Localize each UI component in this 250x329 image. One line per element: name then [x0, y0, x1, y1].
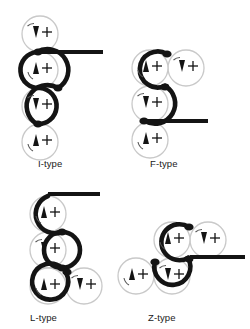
- panel-l-type: [0, 180, 120, 305]
- caption-z-type: Z-type: [148, 312, 176, 323]
- node-circle-ghost: [168, 50, 204, 86]
- caption-l-type: L-type: [30, 312, 57, 323]
- l-type-diagram: [0, 180, 120, 305]
- joint-node: [184, 223, 193, 230]
- panel-i-type: [0, 0, 120, 170]
- joint-node: [54, 85, 63, 92]
- node-circle-ghost: [132, 122, 168, 158]
- panel-f-type: [120, 0, 250, 170]
- joint-node: [161, 84, 170, 91]
- i-type-diagram: [0, 0, 120, 170]
- node-circle-ghost: [190, 222, 226, 258]
- node-circle-active: [132, 86, 168, 122]
- joint-node: [185, 256, 194, 263]
- node-circle-ghost: [66, 268, 102, 304]
- spin-configuration-figure: I-type: [0, 0, 250, 329]
- node-circle-ghost: [22, 124, 58, 160]
- joint-node: [139, 117, 148, 124]
- z-type-diagram: [118, 205, 250, 305]
- joint-node: [162, 50, 171, 57]
- joint-node: [150, 258, 159, 265]
- joint-node: [33, 120, 42, 127]
- f-type-diagram: [120, 0, 250, 170]
- joint-node: [62, 268, 71, 275]
- node-circle-ghost: [118, 258, 154, 294]
- caption-i-type: I-type: [38, 158, 62, 169]
- joint-node: [33, 48, 42, 55]
- caption-f-type: F-type: [150, 158, 178, 169]
- panel-z-type: [118, 205, 250, 305]
- joint-node: [57, 228, 66, 235]
- node-circle-ghost: [22, 16, 58, 52]
